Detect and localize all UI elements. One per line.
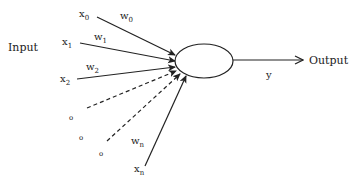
weight-w1-label: w1 (94, 31, 107, 45)
neuron-node (175, 44, 233, 78)
input-edge-x0 (97, 17, 175, 55)
output-symbol-y: y (265, 69, 272, 80)
weight-w2-label: w2 (86, 61, 99, 75)
ellipsis-dot-1: o (69, 114, 73, 122)
output-label: Output (309, 54, 349, 67)
perceptron-diagram: Input x0 w0 x1 w1 x2 w2 o o o wn xn y Ou… (0, 0, 359, 186)
input-edge-dashed-2 (107, 74, 180, 141)
weight-w0-label: w0 (120, 10, 133, 24)
input-x0-label: x0 (79, 8, 89, 22)
input-edge-x1 (80, 43, 175, 61)
weight-wn-label: wn (131, 135, 145, 149)
input-xn-label: xn (134, 163, 145, 177)
input-edge-xn (145, 76, 186, 166)
ellipsis-dot-2: o (79, 134, 83, 142)
input-label: Input (8, 41, 39, 54)
input-x2-label: x2 (60, 73, 70, 87)
input-x1-label: x1 (62, 36, 72, 50)
ellipsis-dot-3: o (99, 150, 103, 158)
